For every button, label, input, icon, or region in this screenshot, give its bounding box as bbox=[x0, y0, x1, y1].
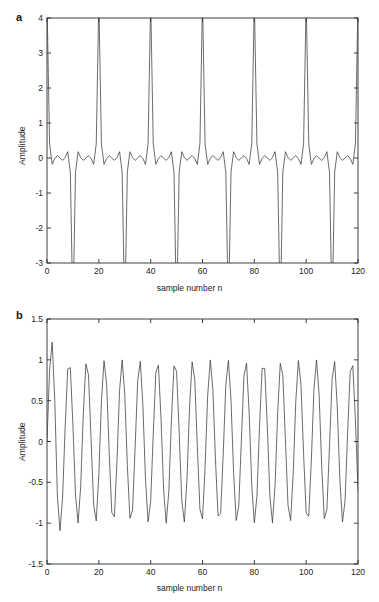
svg-text:20: 20 bbox=[94, 567, 104, 577]
svg-text:-3: -3 bbox=[35, 258, 43, 268]
panel-b-y-axis-label: Amplitude bbox=[17, 422, 27, 461]
svg-text:1: 1 bbox=[38, 118, 43, 128]
svg-text:100: 100 bbox=[299, 266, 313, 276]
svg-text:120: 120 bbox=[351, 567, 365, 577]
panel-a-y-axis-label: Amplitude bbox=[17, 126, 27, 165]
svg-text:40: 40 bbox=[146, 567, 156, 577]
panel-b-x-axis-label: sample number n bbox=[0, 583, 379, 593]
svg-text:2: 2 bbox=[38, 83, 43, 93]
svg-text:0: 0 bbox=[38, 437, 43, 447]
svg-text:0: 0 bbox=[45, 567, 50, 577]
panel-a-x-axis-label: sample number n bbox=[0, 283, 379, 293]
panel-a: a 020406080100120-3-2-101234 Amplitude s… bbox=[0, 0, 379, 301]
svg-text:-1: -1 bbox=[35, 518, 43, 528]
panel-a-plot: 020406080100120-3-2-101234 bbox=[0, 0, 379, 301]
svg-text:120: 120 bbox=[351, 266, 365, 276]
svg-text:-1: -1 bbox=[35, 188, 43, 198]
svg-text:0: 0 bbox=[38, 153, 43, 163]
svg-text:-1.5: -1.5 bbox=[28, 559, 43, 569]
svg-text:0: 0 bbox=[45, 266, 50, 276]
svg-text:20: 20 bbox=[94, 266, 104, 276]
panel-b: b 020406080100120-1.5-1-0.500.511.5 Ampl… bbox=[0, 301, 379, 602]
svg-text:60: 60 bbox=[198, 266, 208, 276]
svg-text:-0.5: -0.5 bbox=[28, 477, 43, 487]
svg-text:100: 100 bbox=[299, 567, 313, 577]
svg-text:60: 60 bbox=[198, 567, 208, 577]
svg-text:1.5: 1.5 bbox=[31, 314, 43, 324]
svg-text:3: 3 bbox=[38, 48, 43, 58]
svg-text:0.5: 0.5 bbox=[31, 396, 43, 406]
svg-text:-2: -2 bbox=[35, 223, 43, 233]
svg-text:80: 80 bbox=[250, 266, 260, 276]
svg-text:4: 4 bbox=[38, 13, 43, 23]
svg-text:1: 1 bbox=[38, 355, 43, 365]
figure-two-panel-signal-plots: a 020406080100120-3-2-101234 Amplitude s… bbox=[0, 0, 379, 602]
panel-b-plot: 020406080100120-1.5-1-0.500.511.5 bbox=[0, 301, 379, 602]
svg-text:80: 80 bbox=[250, 567, 260, 577]
svg-text:40: 40 bbox=[146, 266, 156, 276]
